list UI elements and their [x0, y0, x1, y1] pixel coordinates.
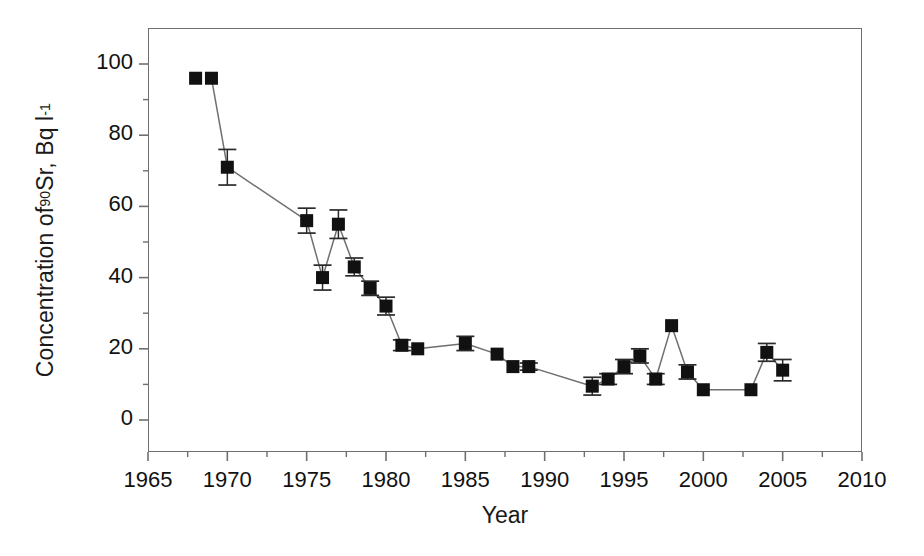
plot-area: [148, 28, 862, 452]
y-tick-label: 100: [63, 49, 133, 75]
y-tick-label: 80: [63, 120, 133, 146]
x-tick-label: 1980: [341, 467, 431, 493]
x-tick-label: 2010: [817, 467, 907, 493]
y-tick-label: 0: [63, 405, 133, 431]
x-tick-label: 1995: [579, 467, 669, 493]
y-tick-label: 20: [63, 334, 133, 360]
y-tick-label: 40: [63, 263, 133, 289]
x-tick-label: 2005: [738, 467, 828, 493]
x-tick-label: 1970: [182, 467, 272, 493]
x-tick-label: 1985: [420, 467, 510, 493]
y-axis-title: Concentration of 90Sr, Bq l-1: [22, 28, 68, 452]
chart-figure: Concentration of 90Sr, Bq l-1 0204060801…: [0, 0, 924, 556]
x-tick-label: 1990: [500, 467, 590, 493]
x-axis-title: Year: [148, 502, 862, 529]
y-tick-label: 60: [63, 191, 133, 217]
x-tick-label: 1965: [103, 467, 193, 493]
x-tick-label: 1975: [262, 467, 352, 493]
x-tick-label: 2000: [658, 467, 748, 493]
